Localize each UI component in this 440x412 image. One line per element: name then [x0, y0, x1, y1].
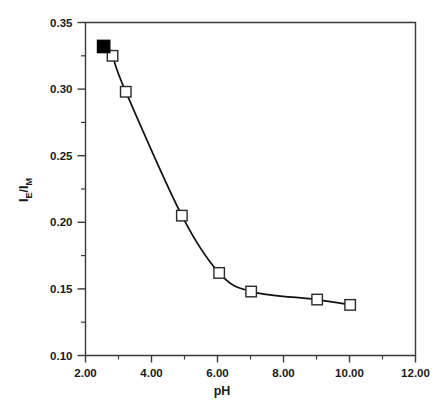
plot-frame: [86, 23, 416, 356]
series-line-open-squares: [113, 56, 351, 305]
chart-figure: 2.004.006.008.0010.0012.00 0.100.150.200…: [0, 0, 440, 412]
y-tick-label-3: 0.25: [50, 150, 73, 162]
data-markers: [97, 40, 355, 310]
data-curve: [113, 56, 351, 305]
marker-open-square-3: [214, 268, 225, 279]
y-axis-title-text: IE/IM: [17, 178, 34, 202]
y-axis-title-trail-sub: M: [24, 178, 34, 186]
x-axis-title: pH: [214, 384, 231, 398]
x-tick-label-0: 2.00: [74, 367, 96, 379]
marker-filled-square-0: [97, 40, 110, 53]
y-axis-tick-labels: 0.100.150.200.250.300.35: [50, 17, 73, 362]
marker-open-square-1: [121, 87, 132, 98]
x-tick-label-5: 12.00: [401, 367, 430, 379]
marker-open-square-6: [345, 300, 356, 311]
axis-frame: [86, 23, 416, 356]
marker-open-square-5: [312, 294, 323, 305]
y-tick-label-0: 0.10: [50, 350, 72, 362]
marker-open-square-2: [177, 210, 188, 221]
x-axis-ticks: [86, 356, 416, 363]
plot-canvas: 2.004.006.008.0010.0012.00 0.100.150.200…: [0, 0, 440, 412]
x-axis-tick-labels: 2.004.006.008.0010.0012.00: [74, 367, 430, 379]
y-axis-title: IE/IM: [17, 178, 34, 202]
y-tick-label-5: 0.35: [50, 17, 73, 29]
x-tick-label-1: 4.00: [140, 367, 162, 379]
marker-open-square-4: [246, 286, 257, 297]
x-tick-label-3: 8.00: [272, 367, 294, 379]
y-axis-title-slash: /I: [17, 186, 31, 193]
x-tick-label-2: 6.00: [206, 367, 228, 379]
y-axis-ticks: [78, 23, 86, 356]
y-tick-label-1: 0.15: [50, 283, 73, 295]
y-tick-label-2: 0.20: [50, 216, 72, 228]
x-tick-label-4: 10.00: [335, 367, 364, 379]
y-tick-label-4: 0.30: [50, 83, 72, 95]
